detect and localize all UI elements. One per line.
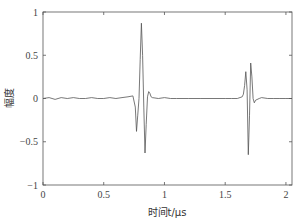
x-tick-label: 0 (41, 189, 46, 200)
amplitude-time-chart: 10.50−0.5−1 00.511.52 时间t/μs 幅度 (0, 0, 300, 224)
plot-area (43, 23, 292, 155)
y-tick-label: 1 (33, 7, 38, 18)
x-tick-label: 0.5 (97, 189, 110, 200)
signal-line (43, 23, 292, 155)
x-tick-label: 1.5 (219, 189, 232, 200)
y-tick-label: 0 (33, 93, 38, 104)
x-axis-ticks: 00.511.52 (41, 12, 289, 200)
x-tick-label: 1 (162, 189, 167, 200)
x-tick-label: 2 (283, 189, 288, 200)
y-tick-label: −0.5 (20, 136, 38, 147)
y-axis-label: 幅度 (3, 88, 15, 108)
y-tick-label: −1 (27, 180, 38, 191)
y-tick-label: 0.5 (26, 50, 39, 61)
x-axis-label: 时间t/μs (148, 206, 187, 218)
